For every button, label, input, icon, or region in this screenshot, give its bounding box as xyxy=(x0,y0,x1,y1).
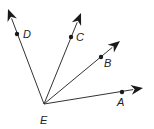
vertex-label-e: E xyxy=(40,114,48,126)
arrowhead-icon xyxy=(108,41,120,53)
angle-rays-diagram: E D C B A xyxy=(0,0,154,129)
point-c xyxy=(69,35,73,39)
point-d xyxy=(15,32,19,36)
point-label-c: C xyxy=(76,31,84,43)
point-label-a: A xyxy=(116,96,124,108)
point-b xyxy=(99,55,103,59)
point-a xyxy=(120,90,124,94)
ray-EC-line xyxy=(44,22,77,104)
point-label-d: D xyxy=(23,28,31,40)
point-label-b: B xyxy=(104,57,111,69)
rays-layer xyxy=(8,9,143,104)
labels-layer: E D C B A xyxy=(23,28,124,126)
